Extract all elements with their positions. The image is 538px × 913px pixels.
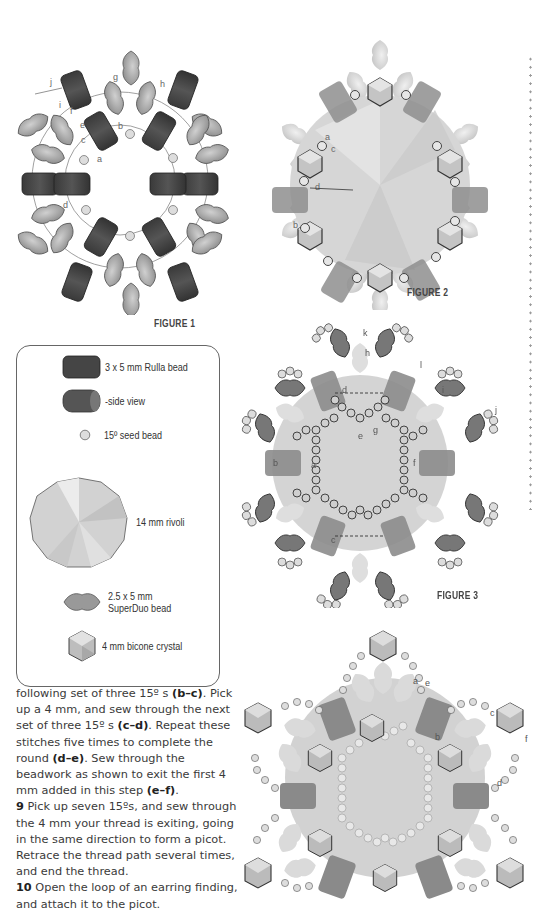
figure-1-diagram: abc def ghij <box>0 30 240 315</box>
bicone-crystal-icon <box>66 630 98 662</box>
legend-label-rulla: 3 x 5 mm Rulla bead <box>105 361 188 373</box>
instructions-text: following set of three 15º s (b–c). Pick… <box>16 686 241 913</box>
svg-text:g: g <box>113 72 118 82</box>
svg-text:d: d <box>63 200 68 210</box>
legend-label-superduo-2: SuperDuo bead <box>108 602 171 614</box>
instruction-continued: following set of three 15º s (b–c). Pick… <box>16 686 241 799</box>
svg-text:b: b <box>435 732 440 742</box>
svg-text:l: l <box>420 360 422 370</box>
rulla-bead-icon <box>62 355 102 379</box>
svg-text:k: k <box>363 328 368 338</box>
figure-2-diagram: abcd <box>255 30 495 310</box>
seed-bead-icon <box>79 429 91 441</box>
svg-text:j: j <box>49 77 52 87</box>
svg-text:i: i <box>59 100 61 110</box>
svg-text:h: h <box>160 79 165 89</box>
legend-label-seed-bead: 15º seed bead <box>104 429 162 441</box>
svg-text:a: a <box>325 132 330 142</box>
svg-text:f: f <box>525 734 528 744</box>
svg-text:a: a <box>413 676 418 686</box>
figure-2-label: FIGURE 2 <box>407 287 448 298</box>
legend-box: 3 x 5 mm Rulla bead -side view 15º seed … <box>16 345 220 687</box>
svg-text:e: e <box>358 431 363 441</box>
svg-text:c: c <box>81 135 86 145</box>
superduo-bead-icon <box>62 591 102 613</box>
svg-text:d: d <box>497 778 502 788</box>
figure-4-diagram: abc def <box>235 618 535 906</box>
svg-text:j: j <box>494 405 497 415</box>
svg-text:g: g <box>373 425 378 435</box>
svg-text:c: c <box>331 535 336 545</box>
instruction-step-9: 9 Pick up seven 15ºs, and sew through th… <box>16 799 241 880</box>
legend-label-superduo-1: 2.5 x 5 mm <box>108 590 153 602</box>
svg-text:b: b <box>273 458 278 468</box>
svg-text:e: e <box>425 678 430 688</box>
rivoli-icon <box>29 476 129 568</box>
svg-text:c: c <box>331 144 336 154</box>
figure-1-inner-rullas <box>54 110 186 258</box>
figure-1-label: FIGURE 1 <box>154 318 195 329</box>
legend-label-bicone: 4 mm bicone crystal <box>102 640 182 652</box>
svg-text:d: d <box>315 182 320 192</box>
svg-text:a: a <box>311 460 316 470</box>
svg-text:h: h <box>365 348 370 358</box>
svg-text:a: a <box>97 154 102 164</box>
rulla-side-view-icon <box>62 389 102 413</box>
svg-text:c: c <box>490 708 495 718</box>
svg-text:d: d <box>342 385 347 395</box>
svg-text:b: b <box>118 121 123 131</box>
legend-label-side-view: -side view <box>105 395 145 407</box>
svg-text:i: i <box>442 385 444 395</box>
legend-label-rivoli: 14 mm rivoli <box>136 516 185 528</box>
svg-text:b: b <box>293 220 298 230</box>
svg-text:e: e <box>80 120 85 130</box>
figure-3-label: FIGURE 3 <box>437 590 478 601</box>
instruction-step-10: 10 Open the loop of an earring finding, … <box>16 880 241 912</box>
dotted-rule <box>529 55 532 510</box>
figure-3-diagram: abcd efgh ijkl <box>235 318 515 608</box>
